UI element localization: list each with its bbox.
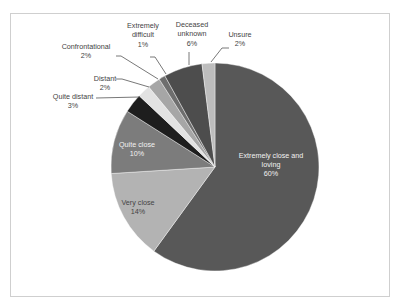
leader-extremely-difficult xyxy=(150,57,166,74)
label-unsure-pct: 2% xyxy=(235,39,246,48)
label-confrontational-pct: 2% xyxy=(81,51,92,60)
leader-distant xyxy=(116,79,149,87)
label-deceased-line2: unknown xyxy=(178,29,207,38)
label-extremely-difficult-pct: 1% xyxy=(138,40,149,49)
label-very-close-pct: 14% xyxy=(131,207,146,216)
pie-chart: Unsure 2% Deceased unknown 6% Extremely … xyxy=(0,0,397,304)
label-quite-distant-pct: 3% xyxy=(68,101,79,110)
label-extremely-close-pct: 60% xyxy=(264,169,279,178)
leader-confrontational xyxy=(116,56,158,79)
label-distant-name: Distant xyxy=(94,74,116,83)
label-confrontational-name: Confrontational xyxy=(62,42,111,51)
label-extremely-close-line2: loving xyxy=(262,160,281,169)
label-deceased-pct: 6% xyxy=(187,39,198,48)
label-distant-pct: 2% xyxy=(100,83,111,92)
label-deceased-line1: Deceased xyxy=(176,20,208,29)
label-extremely-difficult-line1: Extremely xyxy=(127,21,159,30)
label-very-close-name: Very close xyxy=(121,198,154,207)
leader-unsure xyxy=(211,48,229,62)
label-quite-close-pct: 10% xyxy=(130,149,145,158)
pie-slices xyxy=(111,63,319,271)
label-unsure-name: Unsure xyxy=(228,30,251,39)
label-extremely-difficult-line2: difficult xyxy=(132,30,154,39)
label-quite-close-name: Quite close xyxy=(119,140,155,149)
label-extremely-close-line1: Extremely close and xyxy=(239,151,304,160)
label-quite-distant-name: Quite distant xyxy=(53,92,93,101)
leader-quite-distant xyxy=(96,97,140,98)
